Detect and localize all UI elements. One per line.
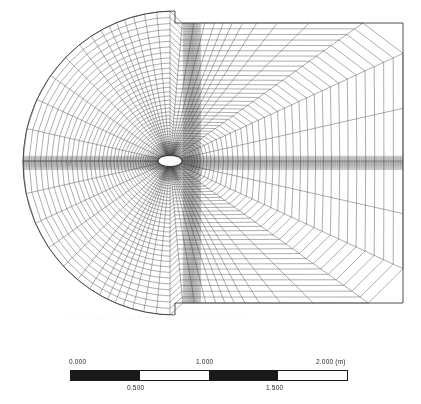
scale-tick-label-one-half: 1.500	[266, 384, 283, 391]
scale-segment-2	[140, 371, 209, 380]
scale-tick-label-half: 0.500	[127, 384, 144, 391]
scale-bar: 0.000 1.000 2.000 (m) 0.500 1.500	[0, 352, 421, 402]
scale-segment-4	[278, 371, 347, 380]
mesh-viewport[interactable]: ANSYS Mesh Quadrilateral Dominant Elemen…	[0, 0, 421, 404]
scale-tick-label-0: 0.000	[69, 358, 86, 365]
mesh-plot-canvas[interactable]	[0, 0, 421, 404]
scale-tick-label-2-unit: 2.000 (m)	[316, 358, 346, 365]
scale-bar-track	[70, 370, 348, 381]
scale-tick-label-1: 1.000	[196, 358, 213, 365]
scale-segment-3	[209, 371, 278, 380]
scale-segment-1	[71, 371, 140, 380]
